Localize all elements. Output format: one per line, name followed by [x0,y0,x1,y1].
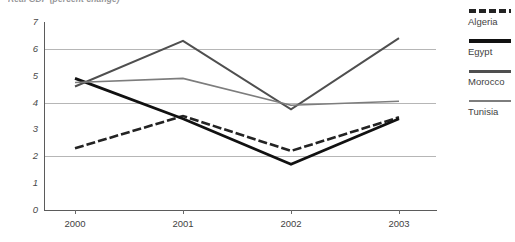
legend-item-egypt[interactable]: Egypt [466,34,515,64]
legend-label: Morocco [468,76,504,87]
legend-swatch-morocco [469,70,511,73]
series-line-algeria [75,116,399,151]
legend-label: Egypt [468,46,492,57]
chart-legend: AlgeriaEgyptMoroccoTunisia [466,4,515,132]
legend-swatch-tunisia [469,100,511,102]
series-line-tunisia [75,78,399,105]
x-axis-tick-mark [291,210,292,214]
x-axis-tick-label: 2000 [45,218,105,229]
x-axis-tick-mark [183,210,184,214]
legend-swatch-algeria [469,9,511,13]
legend-swatch-egypt [469,39,511,43]
series-lines [0,0,515,242]
x-axis-tick-mark [399,210,400,214]
legend-label: Tunisia [468,106,498,117]
legend-label: Algeria [468,16,498,27]
series-line-morocco [75,38,399,109]
chart-figure: Real GDP (percent change) 76543210 20002… [0,0,515,242]
x-axis-tick-label: 2002 [261,218,321,229]
x-axis-tick-mark [75,210,76,214]
legend-item-algeria[interactable]: Algeria [466,4,515,34]
legend-item-morocco[interactable]: Morocco [466,64,515,94]
x-axis-tick-label: 2003 [369,218,429,229]
x-axis-tick-label: 2001 [153,218,213,229]
legend-item-tunisia[interactable]: Tunisia [466,94,515,124]
